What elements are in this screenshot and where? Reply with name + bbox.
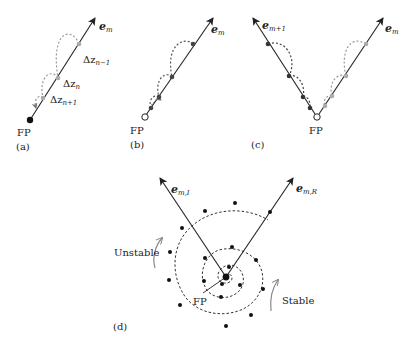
figure-canvas: em Δzn−1 Δzn Δzn+1 FP (a) em FP (b) xyxy=(0,0,412,346)
axis-label-em: em xyxy=(385,22,399,36)
axis-emR-arrow xyxy=(226,178,293,277)
panel-c: em+1 em FP (c) xyxy=(251,18,399,150)
fixed-point-open xyxy=(314,114,320,120)
step-label-n: Δzn xyxy=(63,78,81,91)
iterate-point xyxy=(308,106,313,111)
fp-label: FP xyxy=(17,127,31,138)
fp-label: FP xyxy=(130,125,144,136)
iterate-point xyxy=(364,42,369,47)
panel-caption: (c) xyxy=(251,139,265,150)
iterate-point xyxy=(41,96,46,101)
panel-a: em Δzn−1 Δzn Δzn+1 FP (a) xyxy=(16,18,113,152)
iterate-point xyxy=(330,94,335,99)
axis-label-em: em xyxy=(99,20,113,34)
iterate-point xyxy=(149,106,154,111)
iterate-point xyxy=(157,95,162,100)
jump-path xyxy=(56,34,79,78)
iterate-point xyxy=(344,74,349,79)
step-label-n-1: Δzn−1 xyxy=(83,54,110,67)
iterate-point xyxy=(77,42,82,47)
iterate-point xyxy=(301,95,306,100)
panel-caption: (b) xyxy=(130,139,144,150)
panel-caption: (a) xyxy=(16,141,30,152)
axis-label-emR: em,R xyxy=(296,182,318,196)
jump-path xyxy=(171,41,193,77)
axis-emI-arrow xyxy=(160,178,226,277)
axis-label-em1: em+1 xyxy=(262,19,286,33)
panel-d: em,I em,R Unstable Stable FP (d) xyxy=(113,178,318,332)
iterate-point xyxy=(191,42,196,47)
iterate-point xyxy=(266,42,271,47)
fp-label: FP xyxy=(193,296,207,307)
stable-label: Stable xyxy=(282,295,314,306)
stable-arrow xyxy=(271,280,278,311)
iterate-point xyxy=(287,74,292,79)
axis-label-em: em xyxy=(211,23,225,37)
spiral-points xyxy=(167,201,272,328)
iterate-point xyxy=(323,104,328,109)
panel-b: em FP (b) xyxy=(130,18,225,150)
step-label-n+1: Δzn+1 xyxy=(50,94,77,107)
axis-em-arrow xyxy=(319,18,383,114)
panel-caption: (d) xyxy=(113,321,127,332)
jump-path xyxy=(158,75,172,97)
fixed-point-open xyxy=(142,114,148,120)
fp-label: FP xyxy=(309,125,323,136)
axis-label-emI: em,I xyxy=(171,183,190,197)
iterate-point xyxy=(56,76,61,81)
iterate-point xyxy=(170,75,175,80)
fixed-point-filled xyxy=(27,117,33,123)
unstable-label: Unstable xyxy=(114,247,160,258)
